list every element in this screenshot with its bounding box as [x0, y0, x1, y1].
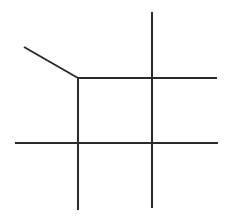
canvas-background: [0, 0, 229, 221]
line-drawing-figure: [0, 0, 229, 221]
drawing-canvas: [0, 0, 229, 221]
